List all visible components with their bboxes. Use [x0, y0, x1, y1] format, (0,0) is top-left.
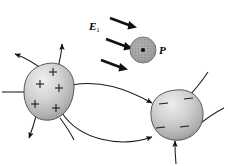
field-arrow-3 — [101, 60, 128, 72]
field-arrow-2 — [106, 39, 133, 51]
field-label-E1: E1 — [89, 21, 100, 32]
point-label-P: P — [159, 45, 166, 56]
point-P-marker — [130, 37, 156, 63]
physics-figure: E1 P — [0, 0, 228, 166]
field-label-E1-subscript: 1 — [96, 26, 100, 34]
negative-body-shape — [151, 90, 203, 140]
field-line-lower-left — [29, 116, 36, 138]
point-P-center-dot — [141, 48, 145, 52]
field-line-incoming-bottom — [175, 141, 176, 164]
field-lines-connecting — [62, 84, 152, 142]
field-line-lower-right-tail — [60, 118, 74, 140]
field-line-upper-connector — [72, 84, 152, 103]
field-arrow-1 — [110, 18, 137, 30]
negative-charged-body — [151, 90, 203, 140]
field-line-lower-connector — [62, 113, 152, 142]
figure-canvas — [0, 0, 228, 166]
